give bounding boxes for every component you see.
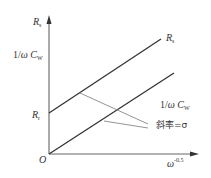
line-label-omega: ω [168,99,175,110]
tick-c: C [30,49,37,60]
y-tick-label-rr: Rr [32,110,40,121]
y-tick-label-inverse-omega-cw: 1/ω CW [13,50,43,61]
rs-line [49,39,161,113]
x-axis-label: ω-0.5 [167,157,184,169]
line-label-c: C [177,99,184,110]
y-axis-arrow-icon [47,15,52,24]
slope-pointer-upper [80,93,148,124]
inverse-omega-cw-line-label: 1/ω CW [160,100,190,111]
tick-sub: W [37,55,43,61]
x-axis-label-sup: -0.5 [174,157,184,163]
origin-label: O [39,155,46,165]
slope-pointer-lower [104,121,148,128]
rs-line-label: Rs [166,33,174,44]
diagram-canvas [0,0,211,178]
line-label-sub: W [184,105,190,111]
y-axis-label-sub: s [39,22,41,28]
line-label-prefix: 1/ [160,99,168,110]
tick-prefix: 1/ [13,49,21,60]
slope-annotation: 斜率=σ [156,121,187,130]
rr-sub: r [38,115,40,121]
y-axis-label: Rs [33,17,41,28]
x-axis-arrow-icon [190,152,199,157]
tick-omega: ω [21,49,28,60]
x-axis-label-main: ω [167,158,174,169]
inverse-omega-cw-line [49,73,174,154]
rs-line-label-sub: s [172,38,174,44]
